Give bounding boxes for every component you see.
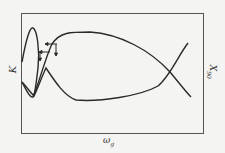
x-axis-label-sub: g xyxy=(110,140,114,147)
y-axis-label-left: K xyxy=(7,66,18,73)
diagram xyxy=(0,0,225,153)
k-curve-main xyxy=(33,32,191,97)
y-axis-label-right-sub: 90 xyxy=(206,71,213,79)
y-axis-label-right: X90 xyxy=(206,65,218,79)
x-axis-label: ωg xyxy=(103,135,114,147)
arrow-icons xyxy=(39,43,58,62)
plot-frame xyxy=(22,14,204,134)
